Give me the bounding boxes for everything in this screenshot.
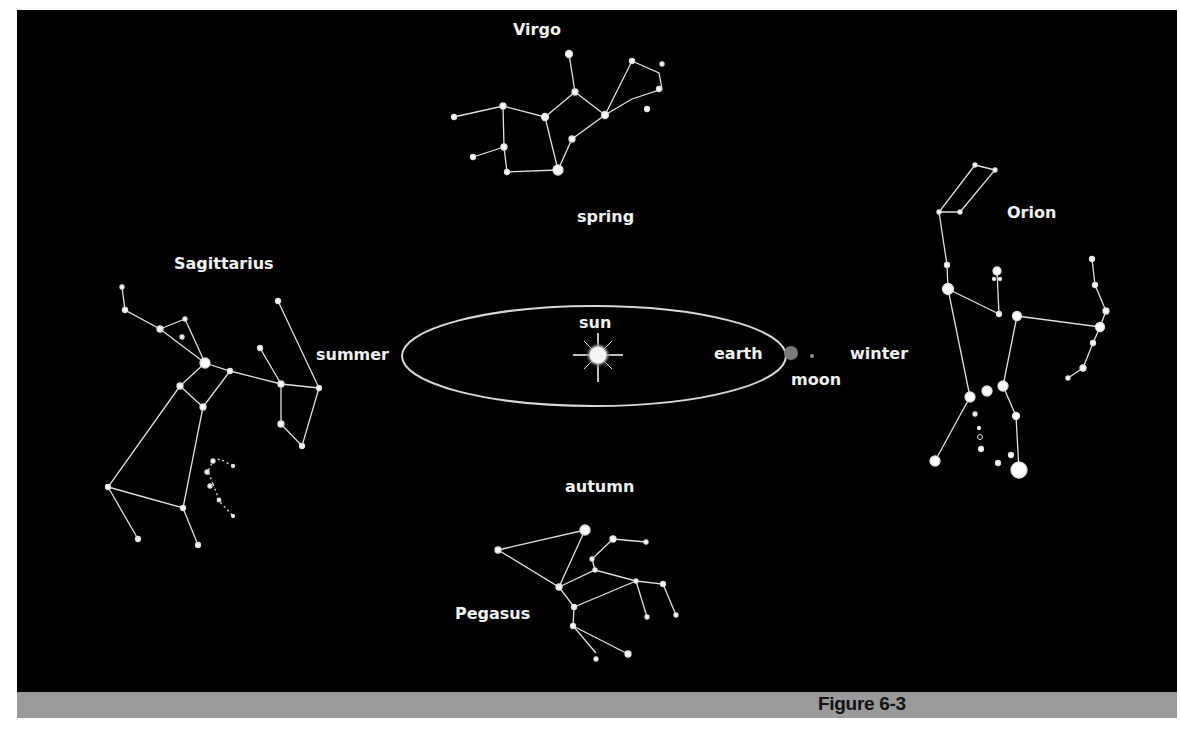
virgo-label: Virgo: [513, 20, 561, 39]
moon-icon: [810, 354, 814, 358]
sun-label: sun: [579, 313, 611, 332]
pegasus-constellation: [495, 525, 678, 661]
sun-icon: [573, 333, 623, 382]
winter-label: winter: [850, 344, 908, 363]
autumn-label: autumn: [565, 477, 634, 496]
sagittarius-label: Sagittarius: [174, 254, 274, 273]
virgo-constellation: [452, 51, 665, 176]
summer-label: summer: [316, 345, 389, 364]
earth-label: earth: [714, 344, 763, 363]
spring-label: spring: [577, 207, 634, 226]
moon-label: moon: [791, 370, 841, 389]
constellation-diagram: [0, 0, 1180, 732]
figure-caption: Figure 6-3: [818, 693, 906, 715]
orion-label: Orion: [1007, 203, 1056, 222]
earth-icon: [784, 346, 798, 360]
pegasus-label: Pegasus: [455, 604, 530, 623]
figure-caption-bar: Figure 6-3: [17, 692, 1177, 718]
sagittarius-constellation: [106, 285, 322, 548]
